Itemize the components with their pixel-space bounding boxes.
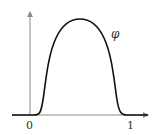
bump-function-figure: 0 1 φ — [0, 0, 155, 135]
phi-curve — [12, 19, 148, 115]
plot-canvas — [0, 0, 155, 135]
x-tick-1: 1 — [127, 120, 134, 131]
phi-label: φ — [111, 28, 119, 40]
x-tick-0: 0 — [26, 120, 33, 131]
